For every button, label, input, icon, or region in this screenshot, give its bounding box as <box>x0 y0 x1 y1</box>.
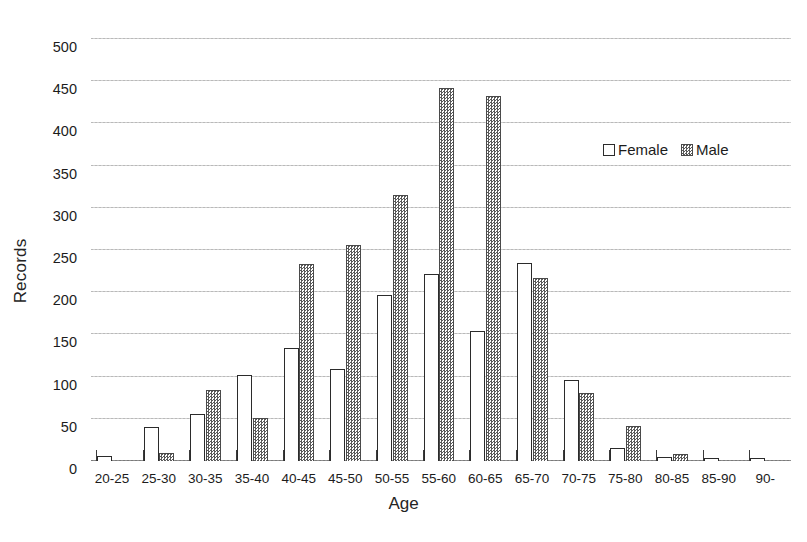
bar-male-65-70[interactable] <box>533 278 548 461</box>
bar-female-45-50[interactable] <box>330 369 345 461</box>
y-axis-title: Records <box>4 0 38 542</box>
bar-female-70-75[interactable] <box>564 380 579 461</box>
bar-male-40-45[interactable] <box>299 264 314 461</box>
bar-female-90-[interactable] <box>750 458 765 461</box>
bar-female-20-25[interactable] <box>97 456 112 461</box>
bar-female-85-90[interactable] <box>704 458 719 461</box>
legend-entry-female[interactable]: Female <box>603 141 668 158</box>
category-group-60-65: 60-65 <box>464 39 511 461</box>
category-group-40-45: 40-45 <box>278 39 325 461</box>
bar-female-50-55[interactable] <box>377 295 392 461</box>
bar-male-35-40[interactable] <box>253 418 268 461</box>
bar-male-75-80[interactable] <box>626 426 641 461</box>
bar-female-30-35[interactable] <box>190 414 205 461</box>
bar-male-50-55[interactable] <box>393 195 408 461</box>
category-group-50-55: 50-55 <box>371 39 418 461</box>
legend-label-male: Male <box>696 141 729 158</box>
category-group-90-: 90- <box>744 39 791 461</box>
bar-female-75-80[interactable] <box>610 448 625 461</box>
bar-male-80-85[interactable] <box>673 454 688 461</box>
x-axis-title: Age <box>0 494 807 514</box>
bar-female-60-65[interactable] <box>470 331 485 461</box>
legend-label-female: Female <box>618 141 668 158</box>
category-group-20-25: 20-25 <box>91 39 138 461</box>
bar-male-30-35[interactable] <box>206 390 221 461</box>
category-group-75-80: 75-80 <box>604 39 651 461</box>
bar-male-55-60[interactable] <box>439 88 454 461</box>
bar-female-55-60[interactable] <box>424 274 439 461</box>
legend-swatch-female-icon <box>603 144 615 156</box>
bar-female-25-30[interactable] <box>144 427 159 461</box>
bar-female-80-85[interactable] <box>657 457 672 461</box>
x-tick-label-90-: 90- <box>720 471 807 486</box>
chart-legend: Female Male <box>601 140 731 159</box>
category-group-65-70: 65-70 <box>511 39 558 461</box>
bar-chart: Records 050100150200250300350400450500 2… <box>0 0 807 542</box>
legend-swatch-male-icon <box>681 144 693 156</box>
bar-male-70-75[interactable] <box>579 393 594 461</box>
category-group-25-30: 25-30 <box>138 39 185 461</box>
bar-female-35-40[interactable] <box>237 375 252 461</box>
category-group-45-50: 45-50 <box>324 39 371 461</box>
bar-male-45-50[interactable] <box>346 245 361 461</box>
bar-male-25-30[interactable] <box>159 453 174 461</box>
category-group-35-40: 35-40 <box>231 39 278 461</box>
bar-male-60-65[interactable] <box>486 96 501 461</box>
plot-area: 050100150200250300350400450500 20-2525-3… <box>91 39 791 461</box>
bar-female-40-45[interactable] <box>284 348 299 461</box>
legend-entry-male[interactable]: Male <box>681 141 729 158</box>
category-group-80-85: 80-85 <box>651 39 698 461</box>
category-group-85-90: 85-90 <box>698 39 745 461</box>
category-group-70-75: 70-75 <box>558 39 605 461</box>
bar-female-65-70[interactable] <box>517 263 532 461</box>
category-group-55-60: 55-60 <box>418 39 465 461</box>
category-group-30-35: 30-35 <box>184 39 231 461</box>
